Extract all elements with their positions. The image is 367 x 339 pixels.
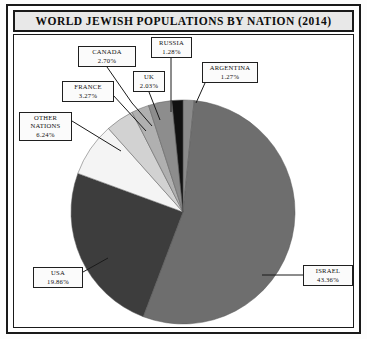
callout-israel: ISRAEL 43.36% xyxy=(303,265,353,286)
callout-other-nations-value: 6.24% xyxy=(36,131,54,139)
callout-israel-value: 43.36% xyxy=(317,276,339,284)
callout-france: FRANCE 3.27% xyxy=(62,81,114,102)
callout-israel-label: ISRAEL xyxy=(316,267,341,275)
callout-uk-label: UK xyxy=(144,73,154,81)
page-title: WORLD JEWISH POPULATIONS BY NATION (2014… xyxy=(36,15,332,27)
callout-argentina: ARGENTINA 1.27% xyxy=(202,62,258,83)
callout-usa-value: 19.86% xyxy=(47,278,69,286)
callout-other-nations-label-2: NATIONS xyxy=(31,122,61,130)
callout-usa: USA 19.86% xyxy=(33,267,83,288)
chart-screenshot: WORLD JEWISH POPULATIONS BY NATION (2014… xyxy=(0,0,367,339)
callout-russia-label: RUSSIA xyxy=(159,39,184,47)
callout-russia: RUSSIA 1.28% xyxy=(151,37,192,58)
callout-uk-value: 2.03% xyxy=(140,82,158,90)
callout-other-nations: OTHER NATIONS 6.24% xyxy=(19,112,72,141)
callout-canada-label: CANADA xyxy=(92,48,122,56)
callout-other-nations-label-1: OTHER xyxy=(34,114,57,122)
callout-uk: UK 2.03% xyxy=(133,71,165,92)
callout-russia-value: 1.28% xyxy=(162,48,180,56)
callout-argentina-label: ARGENTINA xyxy=(210,64,251,72)
callout-france-label: FRANCE xyxy=(74,83,102,91)
callout-france-value: 3.27% xyxy=(79,92,97,100)
callout-canada: CANADA 2.70% xyxy=(78,46,136,67)
callout-argentina-value: 1.27% xyxy=(221,73,239,81)
callout-canada-value: 2.70% xyxy=(98,57,116,65)
chart-title-bar: WORLD JEWISH POPULATIONS BY NATION (2014… xyxy=(13,10,354,32)
callout-usa-label: USA xyxy=(51,269,65,277)
